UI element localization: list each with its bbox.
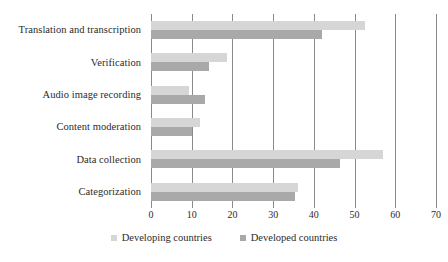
legend-swatch-icon bbox=[240, 235, 246, 241]
x-tick-label: 20 bbox=[227, 209, 237, 220]
category-label: Categorization bbox=[0, 176, 146, 208]
bar bbox=[151, 95, 205, 104]
legend-label: Developing countries bbox=[122, 232, 212, 243]
bar bbox=[151, 118, 200, 127]
legend-item-developing: Developing countries bbox=[111, 232, 212, 243]
bars-layer bbox=[151, 14, 436, 208]
legend-swatch-icon bbox=[111, 235, 117, 241]
plot-area bbox=[151, 14, 436, 208]
bar-group bbox=[151, 111, 436, 143]
bar-group bbox=[151, 143, 436, 175]
legend-item-developed: Developed countries bbox=[240, 232, 338, 243]
bar bbox=[151, 127, 192, 136]
x-axis: 010203040506070 bbox=[151, 209, 436, 225]
bar bbox=[151, 30, 322, 39]
bar-group bbox=[151, 14, 436, 46]
category-label: Translation and transcription bbox=[0, 14, 146, 46]
gridline bbox=[436, 14, 437, 208]
x-tick-label: 10 bbox=[187, 209, 197, 220]
bar bbox=[151, 183, 298, 192]
bar bbox=[151, 159, 340, 168]
bar bbox=[151, 86, 189, 95]
x-tick-label: 60 bbox=[390, 209, 400, 220]
x-tick-label: 50 bbox=[350, 209, 360, 220]
bar bbox=[151, 150, 383, 159]
category-label: Content moderation bbox=[0, 111, 146, 143]
bar-group bbox=[151, 176, 436, 208]
bar bbox=[151, 62, 209, 71]
legend-label: Developed countries bbox=[251, 232, 338, 243]
x-tick-label: 30 bbox=[268, 209, 278, 220]
bar bbox=[151, 21, 365, 30]
chart-legend: Developing countries Developed countries bbox=[0, 232, 448, 243]
category-label: Data collection bbox=[0, 143, 146, 175]
bar-chart: Translation and transcription Verificati… bbox=[0, 0, 448, 262]
bar-group bbox=[151, 79, 436, 111]
x-tick-label: 0 bbox=[149, 209, 154, 220]
category-label: Verification bbox=[0, 46, 146, 78]
category-label: Audio image recording bbox=[0, 79, 146, 111]
bar bbox=[151, 192, 295, 201]
category-axis: Translation and transcription Verificati… bbox=[0, 14, 146, 208]
x-tick-label: 40 bbox=[309, 209, 319, 220]
bar-group bbox=[151, 46, 436, 78]
bar bbox=[151, 53, 227, 62]
x-tick-label: 70 bbox=[431, 209, 441, 220]
